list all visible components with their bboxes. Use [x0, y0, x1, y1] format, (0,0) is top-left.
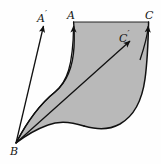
vertex-label-b: B — [10, 146, 18, 157]
figure-container: A′ A C C′ B — [0, 0, 161, 164]
vertex-label-a-prime: A′ — [37, 10, 47, 24]
vertex-label-c: C — [145, 10, 153, 21]
vertex-label-a-prime-text: A — [37, 12, 45, 25]
vertex-label-c-prime: C′ — [119, 30, 129, 44]
prime-mark-c: ′ — [127, 29, 129, 39]
prime-mark-a: ′ — [45, 9, 47, 19]
vertex-label-a: A — [67, 10, 75, 21]
geometry-figure — [0, 0, 161, 164]
